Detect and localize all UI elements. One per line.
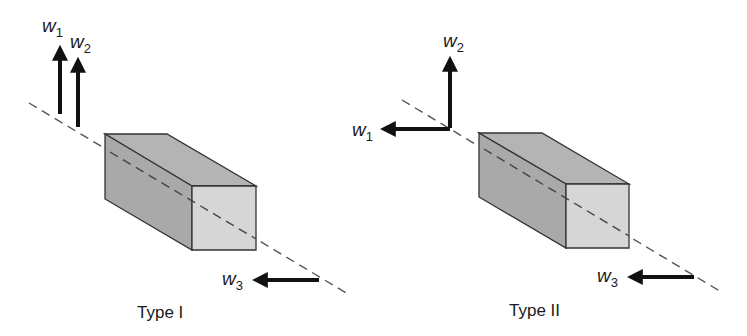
figure-caption: Type II xyxy=(509,301,560,320)
figure-caption: Type I xyxy=(137,303,183,322)
rectangular-box xyxy=(105,134,256,250)
figure-type-1: w1 w2 w3 Type I xyxy=(29,15,348,322)
vector-w2-label: w2 xyxy=(443,30,464,55)
vector-w3-label: w3 xyxy=(597,265,618,290)
vector-w1-label: w1 xyxy=(42,15,63,40)
vector-w1-label: w1 xyxy=(352,119,373,144)
vector-w2-label: w2 xyxy=(70,31,91,56)
vector-w3-label: w3 xyxy=(222,268,243,293)
diagram-canvas: w1 w2 w3 Type I w2 w1 w3 Type II xyxy=(0,0,747,336)
box-front-face xyxy=(566,184,629,248)
box-front-face xyxy=(192,186,256,250)
figure-type-2: w2 w1 w3 Type II xyxy=(352,30,723,320)
